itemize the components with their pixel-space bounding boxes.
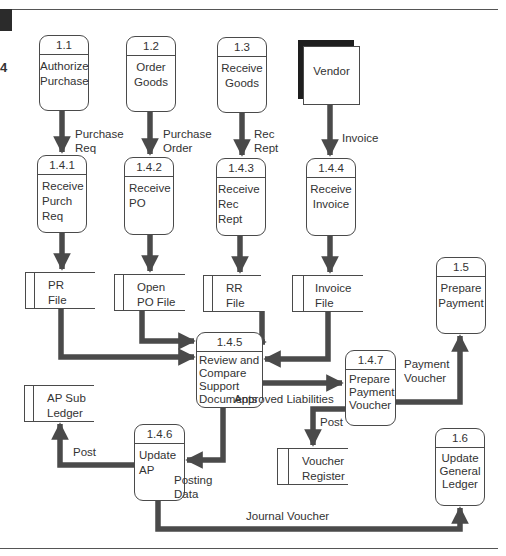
store-label: Open PO File [137,280,175,310]
process-id: 1.2 [127,37,175,56]
flow-label-journal-voucher: Journal Voucher [246,509,329,523]
store-tab [123,275,124,310]
data-store-invoice-file[interactable]: Invoice File [292,275,363,312]
process-1-5[interactable]: 1.5 Prepare Payment [436,257,486,334]
flow-label-post-ap: Post [73,445,96,459]
flow-label-invoice: Invoice [342,131,378,145]
flow-label-post-voucher: Post [320,415,343,429]
flow-pr-to-review [61,308,194,357]
process-id: 1.1 [40,36,88,55]
process-1-3[interactable]: 1.3 Receive Goods [217,37,267,113]
data-flow-diagram: 4 [0,0,506,556]
process-label: Receive PO [125,177,173,211]
data-store-voucher-register[interactable]: Voucher Register [277,448,348,485]
process-1-4-2[interactable]: 1.4.2 Receive PO [124,157,174,235]
process-1-4-3[interactable]: 1.4.3 Receive Rec Rept [216,158,266,236]
store-tab [34,273,35,308]
flow-label-rec-rept: Rec Rept [254,127,278,155]
store-label: AP Sub Ledger [47,391,86,421]
flow-post-ap [60,424,134,465]
process-id: 1.6 [436,429,484,448]
store-tab [303,276,304,311]
process-1-2[interactable]: 1.2 Order Goods [126,36,176,112]
process-1-1[interactable]: 1.1 Authorize Purchase [39,35,89,111]
store-label: PR File [48,278,67,308]
store-tab [33,386,34,421]
vendor-label: Vendor [304,65,359,77]
process-id: 1.4.3 [217,159,265,178]
flow-label-purchase-req: Purchase Req [75,127,124,155]
process-label: Order Goods [127,56,175,90]
data-store-rr-file[interactable]: RR File [203,275,261,312]
data-store-ap-sub-ledger[interactable]: AP Sub Ledger [24,385,94,422]
process-label: Prepare Payment Voucher [346,370,395,412]
process-label: Receive Purch Req [38,175,86,224]
process-label: Receive Goods [218,57,266,91]
flow-open-po-to-review [142,310,194,341]
process-label: Receive Rec Rept [217,178,265,227]
flow-label-purchase-order: Purchase Order [163,127,212,155]
process-id: 1.4.5 [197,333,262,352]
process-1-4-7[interactable]: 1.4.7 Prepare Payment Voucher [345,350,396,426]
store-tab [212,276,213,311]
flow-label-posting-data: Posting Data [174,473,212,501]
process-id: 1.3 [218,38,266,57]
flow-invoice-to-review [265,311,328,359]
process-id: 1.4.2 [125,158,173,177]
process-label: Prepare Payment [437,277,485,311]
store-label: RR File [226,281,245,311]
process-label: Receive Invoice [307,178,355,212]
flow-label-payment-voucher: Payment Voucher [404,357,449,385]
flow-label-approved-liabilities: Approved Liabilities [234,392,334,406]
process-1-4-1[interactable]: 1.4.1 Receive Purch Req [37,155,87,233]
process-id: 1.5 [437,258,485,277]
process-id: 1.4.1 [38,156,86,175]
data-store-open-po-file[interactable]: Open PO File [114,274,185,311]
vendor-entity[interactable]: Vendor [303,46,360,105]
process-id: 1.4.4 [307,159,355,178]
process-1-4-4[interactable]: 1.4.4 Receive Invoice [306,158,356,236]
process-id: 1.4.7 [346,351,395,370]
store-tab [288,449,289,484]
process-label: Update General Ledger [436,448,484,491]
store-label: Voucher Register [302,454,345,484]
process-1-6[interactable]: 1.6 Update General Ledger [435,428,485,506]
process-id: 1.4.6 [135,425,184,444]
process-label: Authorize Purchase [40,55,88,89]
store-label: Invoice File [315,281,351,311]
flow-posting-data [187,407,223,460]
data-store-pr-file[interactable]: PR File [25,272,95,309]
